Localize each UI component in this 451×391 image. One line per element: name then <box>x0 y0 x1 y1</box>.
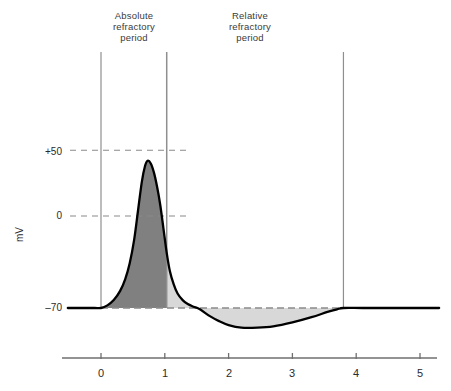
action-potential-plot <box>0 0 451 391</box>
x-tick-label-1: 1 <box>157 367 173 379</box>
hyperpolarization-fill <box>197 308 343 328</box>
absolute-refractory-line-2: refractory <box>96 21 172 32</box>
x-tick-label-3: 3 <box>284 367 300 379</box>
x-tick-label-2: 2 <box>221 367 237 379</box>
relative-refractory-line-3: period <box>212 32 288 43</box>
y-axis-title: mV <box>14 227 25 242</box>
action-potential-figure: Absolute refractory period Relative refr… <box>0 0 451 391</box>
x-tick-label-5: 5 <box>412 367 428 379</box>
x-tick-label-4: 4 <box>348 367 364 379</box>
x-tick-label-0: 0 <box>93 367 109 379</box>
relative-refractory-line-1: Relative <box>212 10 288 21</box>
y-tick-label-plus50: +50 <box>18 146 62 157</box>
absolute-refractory-line-1: Absolute <box>96 10 172 21</box>
relative-refractory-line-2: refractory <box>212 21 288 32</box>
relative-refractory-period-label: Relative refractory period <box>212 10 288 44</box>
y-tick-label-minus70: –70 <box>18 302 62 313</box>
absolute-refractory-period-label: Absolute refractory period <box>96 10 172 44</box>
y-tick-label-zero: 0 <box>18 210 62 221</box>
absolute-refractory-line-3: period <box>96 32 172 43</box>
